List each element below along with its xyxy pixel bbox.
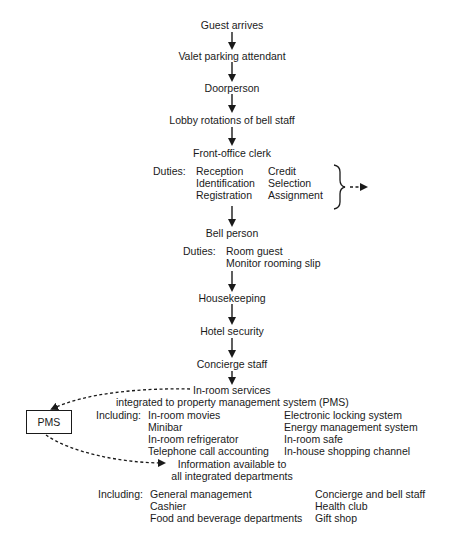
in-room-services-subtitle: integrated to property management system… <box>116 396 349 408</box>
step-doorperson: Doorperson <box>205 82 260 94</box>
step-guest-arrives: Guest arrives <box>201 19 263 31</box>
bell-duty-item: Monitor rooming slip <box>226 257 321 269</box>
in-room-item: In-room movies <box>148 409 220 421</box>
department-item: Cashier <box>150 500 186 512</box>
front-office-duties-label: Duties: <box>153 165 186 177</box>
bell-duty-item: Room guest <box>226 245 283 257</box>
in-room-item: In-room safe <box>284 433 343 445</box>
info-including-label: Including: <box>98 488 143 500</box>
in-room-item: Minibar <box>148 421 182 433</box>
step-front-office-clerk: Front-office clerk <box>193 147 271 159</box>
step-housekeeping: Housekeeping <box>198 292 265 304</box>
department-item: Health club <box>315 500 368 512</box>
info-line-1: Information available to <box>178 458 287 470</box>
step-valet-parking: Valet parking attendant <box>178 50 285 62</box>
step-concierge-staff: Concierge staff <box>197 358 267 370</box>
duty-item: Reception <box>196 165 243 177</box>
in-room-item: In-house shopping channel <box>284 445 410 457</box>
in-room-services-title: In-room services <box>193 384 271 396</box>
duty-item: Assignment <box>268 189 323 201</box>
duty-item: Selection <box>268 177 311 189</box>
dashed-arrow-from-pms-icon <box>46 435 164 463</box>
duty-item: Identification <box>196 177 255 189</box>
step-bell-person: Bell person <box>206 227 259 239</box>
pms-box: PMS <box>26 410 72 434</box>
brace-icon <box>334 165 345 209</box>
in-room-item: Energy management system <box>284 421 418 433</box>
in-room-item: Telephone call accounting <box>148 445 269 457</box>
department-item: Concierge and bell staff <box>315 488 425 500</box>
step-hotel-security: Hotel security <box>200 325 264 337</box>
in-room-item: In-room refrigerator <box>148 433 238 445</box>
pms-label: PMS <box>38 416 61 428</box>
in-room-item: Electronic locking system <box>284 409 402 421</box>
department-item: General management <box>150 488 252 500</box>
department-item: Gift shop <box>315 512 357 524</box>
info-line-2: all integrated departments <box>171 470 292 482</box>
duty-item: Credit <box>268 165 296 177</box>
department-item: Food and beverage departments <box>150 512 302 524</box>
in-room-including-label: Including: <box>96 409 141 421</box>
bell-duties-label: Duties: <box>183 245 216 257</box>
step-lobby-rotations: Lobby rotations of bell staff <box>169 114 294 126</box>
duty-item: Registration <box>196 189 252 201</box>
